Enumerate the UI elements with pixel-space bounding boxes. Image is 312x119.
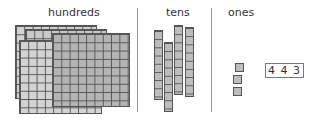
hundred-flat (52, 33, 130, 107)
hundreds-label: hundreds (48, 6, 100, 19)
ten-rod (185, 27, 194, 97)
divider-tens-ones (211, 8, 212, 112)
one-unit (233, 87, 242, 96)
ones-label: ones (228, 6, 254, 19)
ten-rod (174, 25, 183, 95)
tens-label: tens (166, 6, 190, 19)
ten-rod (154, 30, 163, 100)
ten-rod (164, 42, 173, 112)
one-unit (235, 63, 244, 72)
one-unit (233, 75, 242, 84)
value-box: 4 4 3 (265, 63, 304, 78)
divider-hundreds-tens (137, 8, 138, 112)
